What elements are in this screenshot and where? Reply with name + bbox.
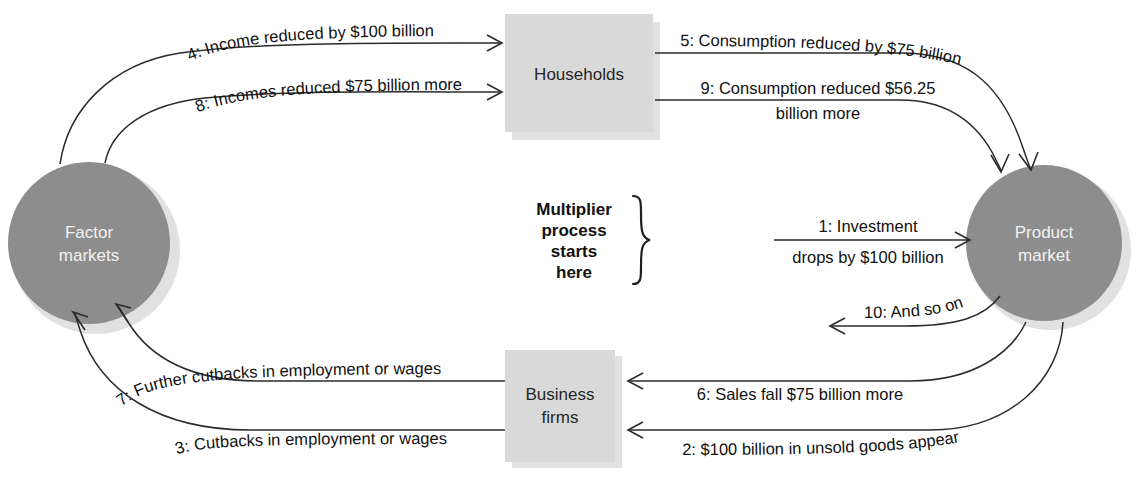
product-market-label-line1: Product: [1015, 223, 1074, 242]
edge-6-line: [630, 322, 1026, 381]
multiplier-flow-diagram: Factor markets Product market Households…: [0, 0, 1145, 480]
edge-8-label: 8: Incomes reduced $75 billion more: [193, 75, 462, 115]
edge-7-label: 7: Further cutbacks in employment or wag…: [113, 359, 442, 409]
business-firms-box[interactable]: [505, 350, 615, 462]
edge-10-label-text: 10: And so on: [864, 292, 965, 321]
edge-1-label-line1: 1: Investment: [818, 217, 917, 235]
business-firms-label-line2: firms: [542, 408, 579, 427]
product-market-circle[interactable]: [966, 165, 1122, 321]
edge-8-label-text: 8: Incomes reduced $75 billion more: [193, 75, 462, 115]
edge-10-label: 10: And so on: [864, 292, 965, 321]
factor-markets-label-line1: Factor: [65, 223, 114, 242]
flow-canvas: Factor markets Product market Households…: [0, 0, 1145, 480]
edge-9-label-line2: billion more: [776, 104, 860, 122]
edge-5-label: 5: Consumption reduced by $75 billion: [680, 31, 963, 68]
edge-2-label: 2: $100 billion in unsold goods appear: [682, 427, 961, 458]
edge-2-line: [630, 322, 1063, 430]
edge-2-label-text: 2: $100 billion in unsold goods appear: [682, 427, 961, 458]
households-label: Households: [534, 65, 624, 84]
edge-8-line: [105, 92, 500, 163]
curly-brace-icon: [633, 196, 650, 284]
callout-line3: starts: [551, 242, 597, 261]
factor-markets-circle[interactable]: [8, 162, 170, 324]
edge-3-label-text: 3: Cutbacks in employment or wages: [173, 429, 447, 457]
callout-line4: here: [556, 263, 592, 282]
edge-6-label: 6: Sales fall $75 billion more: [697, 385, 903, 403]
edge-9-label-line1: 9: Consumption reduced $56.25: [701, 79, 936, 97]
callout-line2: process: [541, 221, 606, 240]
product-market-label-line2: market: [1018, 246, 1070, 265]
edge-4-line: [60, 43, 500, 164]
edge-7-label-text: 7: Further cutbacks in employment or wag…: [113, 359, 442, 409]
edge-5-label-text: 5: Consumption reduced by $75 billion: [680, 31, 963, 68]
callout-line1: Multiplier: [536, 200, 612, 219]
business-firms-label-line1: Business: [526, 385, 595, 404]
edge-3-label: 3: Cutbacks in employment or wages: [173, 429, 447, 457]
edge-1-label-line2: drops by $100 billion: [792, 248, 943, 266]
factor-markets-label-line2: markets: [59, 246, 119, 265]
